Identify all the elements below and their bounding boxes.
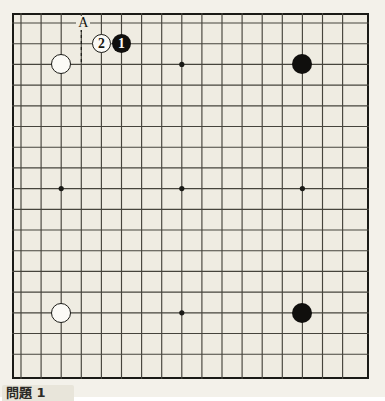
- black-move-1[interactable]: 1: [112, 34, 131, 53]
- white-move-2-number: 2: [93, 35, 110, 52]
- point-label-a: A: [76, 16, 90, 30]
- star-bottom-center: [179, 310, 184, 315]
- star-middle-left: [59, 186, 64, 191]
- figure-caption: 問題 1: [2, 385, 74, 401]
- star-center: [179, 186, 184, 191]
- star-top-center: [179, 62, 184, 67]
- go-board[interactable]: 21 A: [12, 13, 369, 379]
- white-move-2[interactable]: 2: [92, 34, 111, 53]
- white-stone-lower-left[interactable]: [51, 303, 71, 323]
- figure-caption-text: 問題 1: [6, 385, 46, 401]
- black-move-1-number: 1: [112, 34, 131, 53]
- star-middle-right: [300, 186, 305, 191]
